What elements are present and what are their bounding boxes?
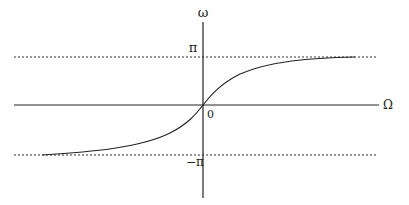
lower-asymptote-label: −π <box>186 155 204 169</box>
warping-curve <box>42 57 355 155</box>
vertical-axis-label: ω <box>198 5 209 20</box>
origin-label: 0 <box>207 108 214 121</box>
warping-diagram: ω Ω 0 π −π <box>0 0 409 205</box>
horizontal-axis-label: Ω <box>383 98 393 112</box>
upper-asymptote-label: π <box>189 40 198 55</box>
